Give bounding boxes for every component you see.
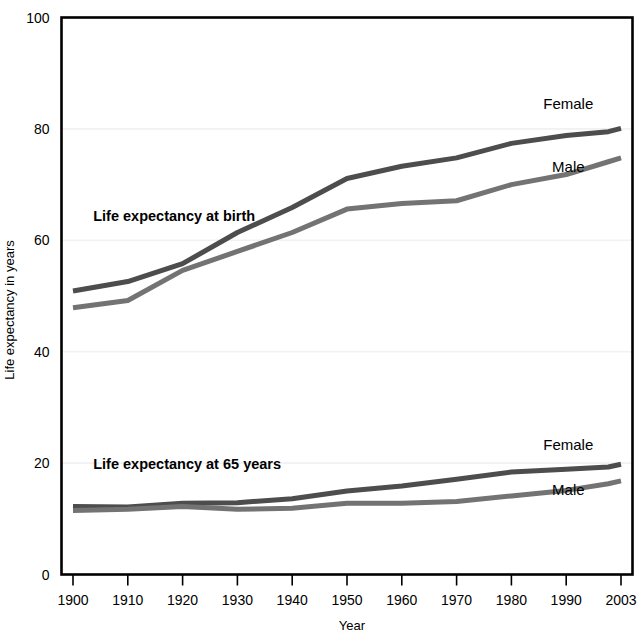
x-tick-label-1940: 1940: [277, 592, 308, 608]
chart-canvas: 020406080100 190019101920193019401950196…: [0, 0, 643, 643]
x-tick-label-1900: 1900: [57, 592, 88, 608]
x-axis-title: Year: [339, 618, 366, 633]
series-label-1: Male: [552, 158, 585, 175]
y-tick-label-20: 20: [34, 455, 50, 471]
x-tick-label-1910: 1910: [112, 592, 143, 608]
x-tick-label-1960: 1960: [386, 592, 417, 608]
y-tick-label-40: 40: [34, 344, 50, 360]
x-tick-label-1980: 1980: [496, 592, 527, 608]
y-tick-label-100: 100: [26, 10, 50, 26]
y-tick-label-60: 60: [34, 232, 50, 248]
series-label-3: Male: [552, 481, 585, 498]
x-tick-label-1970: 1970: [441, 592, 472, 608]
y-tick-label-0: 0: [42, 567, 50, 583]
annotation-0: Life expectancy at birth: [93, 208, 255, 224]
x-tick-label-2003: 2003: [605, 592, 636, 608]
series-label-0: Female: [543, 95, 593, 112]
series-label-2: Female: [543, 436, 593, 453]
annotation-1: Life expectancy at 65 years: [93, 456, 281, 472]
x-tick-label-1990: 1990: [551, 592, 582, 608]
x-tick-label-1920: 1920: [167, 592, 198, 608]
y-axis-title: Life expectancy in years: [2, 240, 17, 380]
x-tick-label-1950: 1950: [331, 592, 362, 608]
x-tick-label-1930: 1930: [222, 592, 253, 608]
life-expectancy-chart: 020406080100 190019101920193019401950196…: [0, 0, 643, 643]
y-tick-label-80: 80: [34, 121, 50, 137]
